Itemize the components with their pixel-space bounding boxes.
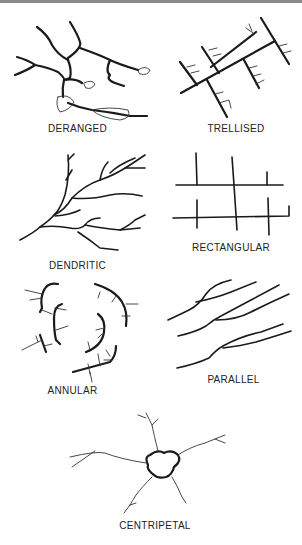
panel-centripetal: CENTRIPETAL: [60, 405, 250, 545]
label-deranged: DERANGED: [40, 123, 115, 134]
label-rectangular: RECTANGULAR: [186, 242, 276, 253]
label-annular: ANNULAR: [40, 385, 105, 396]
panel-deranged: DERANGED: [0, 0, 151, 140]
panel-annular: ANNULAR: [0, 280, 151, 410]
label-dendritic: DENDRITIC: [45, 260, 110, 271]
label-trellised: TRELLISED: [201, 123, 271, 134]
label-centripetal: CENTRIPETAL: [115, 520, 195, 531]
deranged-pattern-drawing: [0, 0, 151, 140]
label-parallel: PARALLEL: [201, 374, 266, 385]
panel-dendritic: DENDRITIC: [0, 140, 151, 280]
dendritic-pattern-drawing: [0, 140, 151, 280]
trellised-pattern-drawing: [151, 0, 302, 140]
panel-rectangular: RECTANGULAR: [151, 140, 302, 280]
parallel-pattern-drawing: [151, 280, 302, 410]
panel-parallel: PARALLEL: [151, 280, 302, 410]
rectangular-pattern-drawing: [151, 140, 302, 280]
panel-trellised: TRELLISED: [151, 0, 302, 140]
